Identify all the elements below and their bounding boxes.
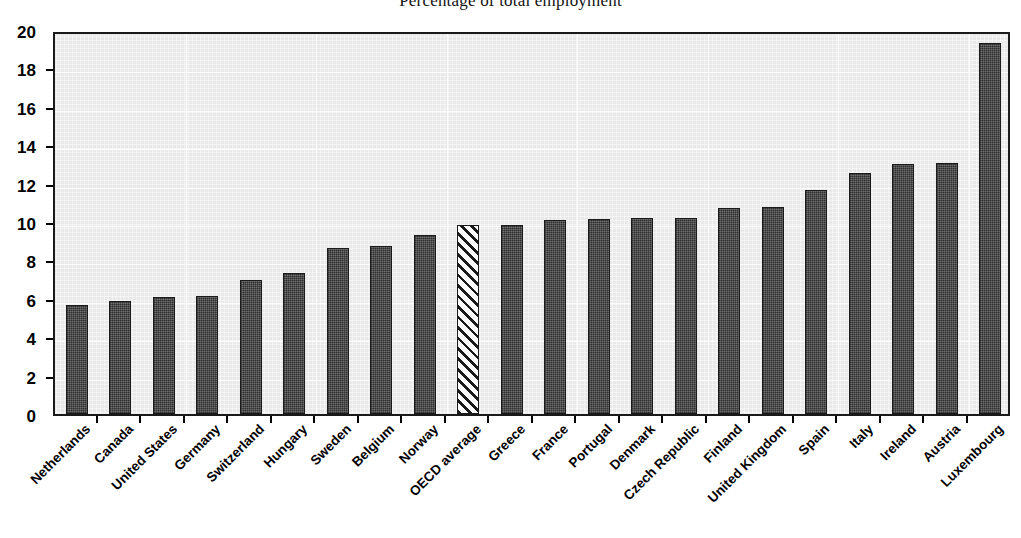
bar-series <box>55 34 1008 414</box>
y-axis-tick-label: 0 <box>0 408 36 425</box>
bar <box>979 43 1001 414</box>
x-axis-labels: NetherlandsCanadaUnited StatesGermanySwi… <box>53 420 1010 538</box>
x-axis-category-label-text: Spain <box>796 420 834 458</box>
bar <box>544 220 566 414</box>
y-axis-tick-mark <box>46 338 53 340</box>
y-axis-tick-mark <box>46 108 53 110</box>
bar <box>849 173 871 414</box>
y-axis-tick-label: 20 <box>0 24 36 41</box>
y-axis-tick-label: 10 <box>0 216 36 233</box>
y-axis-tick-label: 16 <box>0 101 36 118</box>
y-axis-tick-mark <box>46 146 53 148</box>
y-axis-tick-mark <box>46 185 53 187</box>
y-axis-tick-mark <box>46 69 53 71</box>
y-axis-tick-label: 8 <box>0 254 36 271</box>
x-axis-category-label-text: France <box>530 420 573 463</box>
x-axis-category-label-text: Netherlands <box>27 420 94 487</box>
y-axis-tick-label: 18 <box>0 62 36 79</box>
bar <box>936 163 958 414</box>
x-axis-category-label-text: United Kingdom <box>705 420 791 506</box>
y-axis-tick-label: 6 <box>0 293 36 310</box>
bar <box>588 219 610 414</box>
chart-title: Percentage of total employment <box>0 0 1021 11</box>
plot-area <box>53 32 1010 416</box>
y-axis-tick-label: 2 <box>0 370 36 387</box>
bar <box>892 164 914 414</box>
y-axis-labels: 20181614121086420 <box>0 32 36 416</box>
y-axis-tick-marks <box>46 32 53 416</box>
bar-chart-figure: Percentage of total employment 201816141… <box>0 0 1021 538</box>
x-axis-category-label-text: Czech Republic <box>620 420 703 503</box>
x-axis-category-label-text: Ireland <box>878 420 921 463</box>
x-axis-category-label-text: Italy <box>846 420 877 451</box>
y-axis-tick-mark <box>46 223 53 225</box>
y-axis-tick-label: 12 <box>0 178 36 195</box>
bar <box>762 207 784 414</box>
y-axis-tick-mark <box>46 261 53 263</box>
bar <box>66 305 88 414</box>
y-axis-tick-mark <box>46 300 53 302</box>
y-axis-tick-label: 4 <box>0 331 36 348</box>
x-axis-category-label-text: Greece <box>485 420 529 464</box>
y-axis-tick-mark <box>46 377 53 379</box>
y-axis-tick-label: 14 <box>0 139 36 156</box>
